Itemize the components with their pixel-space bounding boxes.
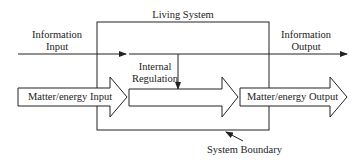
title-label: Living System (143, 9, 223, 21)
information-input-label: Information Input (17, 29, 97, 53)
system-boundary-label: System Boundary (207, 144, 282, 156)
matter-output-label: Matter/energy Output (247, 91, 338, 103)
system-boundary-box (97, 22, 269, 130)
system-boundary-pointer (226, 132, 243, 141)
internal-regulation-label: Internal Regulation (127, 61, 183, 85)
information-output-label: Information Output (268, 29, 344, 53)
matter-input-label: Matter/energy Input (28, 91, 112, 103)
